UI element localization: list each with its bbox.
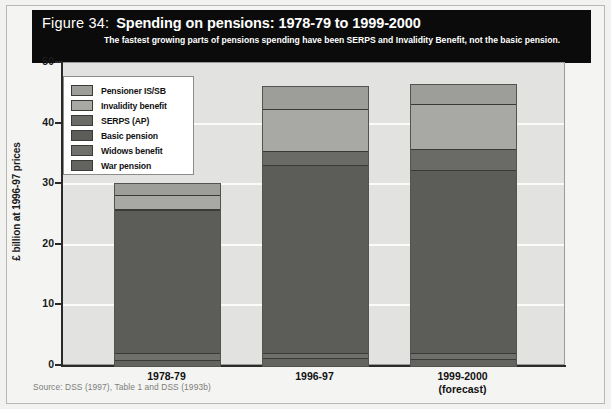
legend-label: Basic pension — [101, 131, 158, 141]
legend-swatch-icon — [71, 145, 93, 156]
figure-number: Figure 34: — [42, 15, 109, 31]
figure-title: Spending on pensions: 1978-79 to 1999-20… — [116, 15, 420, 31]
bar-segment-war-pension — [411, 360, 516, 366]
bar-segment-widows-benefit — [115, 354, 220, 361]
bar-segment-serps-ap — [263, 152, 368, 166]
y-axis-title: £ billion at 1996-97 prices — [11, 82, 22, 322]
bar-segment-serps-ap — [411, 150, 516, 172]
bar-segment-war-pension — [115, 361, 220, 366]
legend-item-invalidity-benefit[interactable]: Invalidity benefit — [71, 98, 193, 113]
y-tick-mark-20 — [55, 243, 62, 245]
bar-2 — [262, 86, 369, 367]
x-axis-label-line1: 1999-2000 — [383, 370, 543, 383]
figure-subtitle: The fastest growing parts of pensions sp… — [104, 35, 574, 46]
bar-1 — [114, 183, 221, 367]
y-tick-mark-40 — [55, 122, 62, 124]
legend-label: SERPS (AP) — [101, 116, 149, 126]
legend-label: War pension — [101, 161, 151, 171]
bar-segment-invalidity-benefit — [115, 196, 220, 209]
bar-segment-pensioner-is-sb — [411, 85, 516, 104]
bar-3 — [410, 84, 517, 367]
y-tick-mark-30 — [55, 182, 62, 184]
y-tick-label-0: 0 — [8, 358, 54, 370]
legend-swatch-icon — [71, 130, 93, 141]
x-axis-label-line2: (forecast) — [383, 383, 543, 396]
legend-swatch-icon — [71, 100, 93, 111]
bar-segment-invalidity-benefit — [263, 110, 368, 152]
legend-label: Invalidity benefit — [101, 101, 167, 111]
x-axis-label-2: 1996-97 — [235, 370, 395, 383]
x-axis-label-line1: 1996-97 — [235, 370, 395, 383]
figure-title-banner: Figure 34:Spending on pensions: 1978-79 … — [32, 10, 591, 63]
source-note: Source: DSS (1997), Table 1 and DSS (199… — [33, 382, 211, 392]
bar-segment-basic-pension — [263, 166, 368, 354]
legend-item-war-pension[interactable]: War pension — [71, 158, 193, 173]
figure-container: Figure 34:Spending on pensions: 1978-79 … — [0, 0, 611, 409]
x-axis-label-3: 1999-2000(forecast) — [383, 370, 543, 396]
y-tick-mark-0 — [55, 364, 62, 366]
bar-segment-invalidity-benefit — [411, 105, 516, 150]
bar-segment-basic-pension — [115, 211, 220, 354]
bar-segment-pensioner-is-sb — [115, 184, 220, 196]
bar-segment-basic-pension — [411, 171, 516, 354]
bar-segment-pensioner-is-sb — [263, 87, 368, 109]
y-tick-mark-50 — [55, 61, 62, 63]
legend-item-widows-benefit[interactable]: Widows benefit — [71, 143, 193, 158]
bar-segment-war-pension — [263, 359, 368, 366]
legend-item-serps-ap[interactable]: SERPS (AP) — [71, 113, 193, 128]
legend-label: Pensioner IS/SB — [101, 86, 166, 96]
y-tick-mark-10 — [55, 303, 62, 305]
legend-swatch-icon — [71, 115, 93, 126]
legend-label: Widows benefit — [101, 146, 163, 156]
y-tick-label-50: 50 — [8, 55, 54, 67]
chart-legend: Pensioner IS/SBInvalidity benefitSERPS (… — [63, 76, 194, 175]
legend-item-pensioner-is-sb[interactable]: Pensioner IS/SB — [71, 83, 193, 98]
legend-swatch-icon — [71, 160, 93, 171]
legend-item-basic-pension[interactable]: Basic pension — [71, 128, 193, 143]
legend-swatch-icon — [71, 85, 93, 96]
